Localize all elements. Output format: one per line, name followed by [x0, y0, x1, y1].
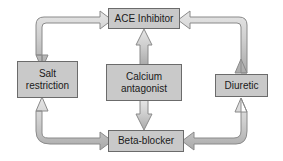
edge-calcium-ace — [136, 29, 152, 65]
node-calcium-antagonist[interactable]: Calcium antagonist — [106, 64, 182, 101]
node-beta-blocker[interactable]: Beta-blocker — [108, 130, 184, 152]
edge-diuretic-beta — [182, 98, 247, 150]
node-beta-blocker-label: Beta-blocker — [116, 135, 176, 146]
node-ace-inhibitor-label: ACE Inhibitor — [113, 13, 176, 24]
edge-beta-salt — [36, 97, 112, 150]
node-salt-restriction[interactable]: Salt restriction — [17, 61, 78, 98]
node-ace-inhibitor[interactable]: ACE Inhibitor — [108, 8, 180, 29]
flow-diagram: ACE Inhibitor Salt restriction Calcium a… — [0, 0, 283, 161]
node-diuretic[interactable]: Diuretic — [215, 74, 268, 97]
node-calcium-antagonist-label: Calcium antagonist — [119, 71, 169, 93]
node-diuretic-label: Diuretic — [223, 80, 261, 91]
edge-calcium-beta — [136, 100, 152, 130]
edge-ace-diuretic — [178, 11, 247, 73]
node-salt-restriction-label: Salt restriction — [24, 68, 71, 90]
